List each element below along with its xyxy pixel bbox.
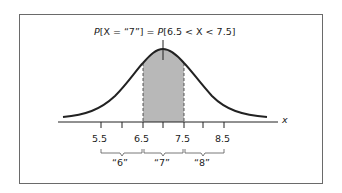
tick-label-5-5: 5.5 bbox=[92, 133, 107, 144]
bracket-label-7: “7” bbox=[154, 157, 170, 168]
equation-right: [6.5 < X < 7.5] bbox=[163, 26, 235, 37]
probability-equation: P[X = “7”] = P[6.5 < X < 7.5] bbox=[94, 26, 235, 37]
tick-label-7-5: 7.5 bbox=[175, 133, 190, 144]
x-axis-label: x bbox=[282, 114, 288, 125]
bracket-label-6: “6” bbox=[112, 157, 128, 168]
tick-label-8-5: 8.5 bbox=[215, 133, 230, 144]
tick-label-6-5: 6.5 bbox=[134, 133, 149, 144]
category-braces bbox=[101, 149, 224, 156]
equation-left: [X = “7”] = bbox=[100, 26, 158, 37]
axis-ticks bbox=[101, 122, 224, 128]
bracket-label-8: “8” bbox=[194, 157, 210, 168]
